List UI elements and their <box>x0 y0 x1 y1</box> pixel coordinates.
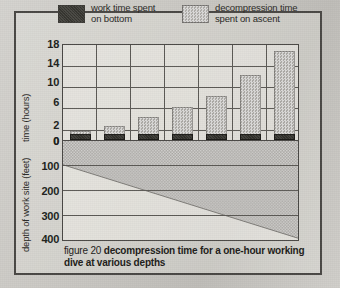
depth-plot-area <box>62 141 299 241</box>
bar-group-6 <box>240 44 261 140</box>
legend-swatch-decompression-time-icon <box>182 5 209 23</box>
bar-group-2 <box>104 44 125 140</box>
bar-group-1 <box>70 44 91 140</box>
bar-work-6 <box>240 134 261 140</box>
bar-decompression-7 <box>274 51 295 140</box>
figure-page: work time spent on bottom decompression … <box>0 0 340 288</box>
bar-work-5 <box>206 134 227 140</box>
bar-group-3 <box>138 44 159 140</box>
gridline-category-2 <box>130 45 131 140</box>
legend-item-work-time: work time spent on bottom <box>58 3 155 24</box>
gridline-category-1 <box>96 45 97 140</box>
legend-label-work-time-line1: work time spent <box>91 3 155 14</box>
tick-depth-0: 0 <box>35 136 59 147</box>
bar-group-4 <box>172 44 193 140</box>
legend-swatch-work-time-icon <box>58 5 85 23</box>
bar-work-1 <box>70 134 91 140</box>
legend-label-work-time-line2: on bottom <box>91 14 155 25</box>
legend-item-decompression-time: decompression time spent on ascent <box>182 3 297 24</box>
figure-caption: figure 20 decompression time for a one-h… <box>64 245 310 268</box>
chart-legend: work time spent on bottom decompression … <box>46 3 306 35</box>
gridline-depth-300 <box>63 215 298 216</box>
gridline-depth-200 <box>63 190 298 191</box>
gridline-category-3 <box>164 45 165 140</box>
y-axis-ticks-depth: 0 100 200 300 400 <box>33 0 59 288</box>
y-axis-title-depth: depth of work site (feet) <box>20 158 31 252</box>
tick-depth-100: 100 <box>35 161 59 172</box>
bar-group-5 <box>206 44 227 140</box>
figure-number: figure 20 <box>64 245 101 256</box>
gridline-category-5 <box>232 45 233 140</box>
legend-label-decompression-time-line1: decompression time <box>215 3 297 14</box>
legend-label-work-time: work time spent on bottom <box>91 3 155 24</box>
gridline-depth-100 <box>63 165 298 166</box>
legend-label-decompression-time: decompression time spent on ascent <box>215 3 297 24</box>
bar-work-4 <box>172 134 193 140</box>
bar-work-3 <box>138 134 159 140</box>
bar-decompression-6 <box>240 75 261 140</box>
figure-caption-text: decompression time for a one-hour workin… <box>64 245 304 268</box>
tick-depth-200: 200 <box>35 186 59 197</box>
legend-label-decompression-time-line2: spent on ascent <box>215 14 297 25</box>
gridline-category-6 <box>266 45 267 140</box>
tick-depth-400: 400 <box>35 234 59 245</box>
time-plot-area <box>62 44 299 141</box>
gridline-category-4 <box>198 45 199 140</box>
bar-work-7 <box>274 134 295 140</box>
y-axis-title-time: time (hours) <box>20 94 31 142</box>
bar-work-2 <box>104 134 125 140</box>
tick-depth-300: 300 <box>35 211 59 222</box>
bar-group-7 <box>274 44 295 140</box>
